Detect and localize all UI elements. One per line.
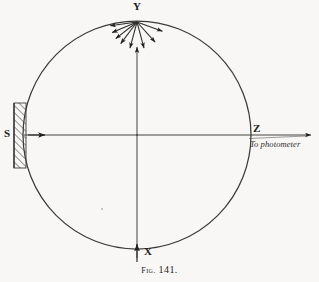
annotation-to-photometer: To photometer xyxy=(250,140,300,149)
source-slit-block xyxy=(14,103,26,168)
axis-label-y: Y xyxy=(133,1,141,12)
axis-label-x: X xyxy=(144,246,152,257)
figure-caption: Fig. 141. xyxy=(0,264,319,275)
caption-number: 141. xyxy=(159,264,178,275)
caption-prefix: Fig. xyxy=(141,266,155,275)
figure-141: Y X Z S To photometer Fig. 141. xyxy=(0,0,319,282)
paper-speck xyxy=(101,208,103,210)
source-label-s: S xyxy=(4,128,10,139)
axis-label-z: Z xyxy=(253,123,261,134)
scatter-ray-fan xyxy=(110,22,162,48)
